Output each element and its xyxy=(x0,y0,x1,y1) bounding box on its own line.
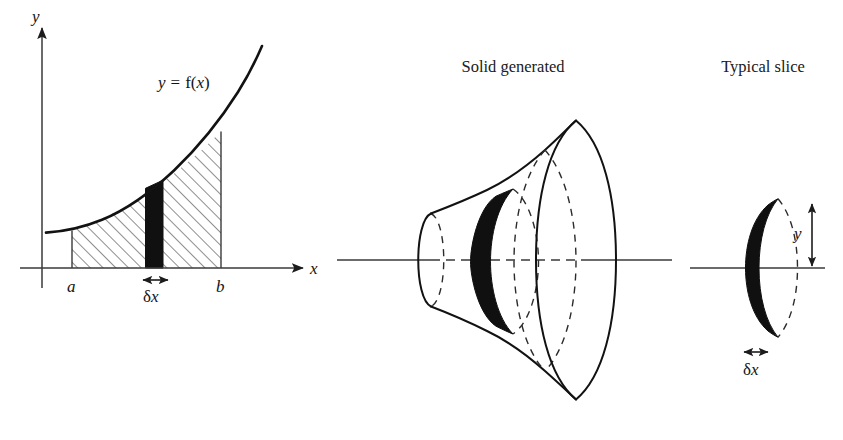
delta-x-label: δx xyxy=(143,287,159,306)
y-axis-label: y xyxy=(30,7,40,26)
lower-limit-label-a: a xyxy=(67,277,76,296)
area-under-curve-graph: y x a b δx y=f(x) xyxy=(20,7,318,306)
solid-slice-hidden-arc xyxy=(513,189,539,334)
upper-limit-label-b: b xyxy=(216,277,225,296)
solid-generated-title: Solid generated xyxy=(461,57,565,76)
x-axis-label: x xyxy=(309,259,318,278)
solid-slice-band xyxy=(471,189,514,334)
slice-radius-label: y xyxy=(792,224,802,243)
typical-slice-panel: Typical slice y δx xyxy=(690,57,825,379)
slice-thickness-label: δx xyxy=(743,360,759,379)
typical-slice-title: Typical slice xyxy=(721,57,805,76)
solid-generated-panel: Solid generated xyxy=(337,57,672,400)
solid-of-revolution-figure: y x a b δx y=f(x) Solid generated xyxy=(0,0,843,440)
curve-label: y=f(x) xyxy=(156,73,210,92)
